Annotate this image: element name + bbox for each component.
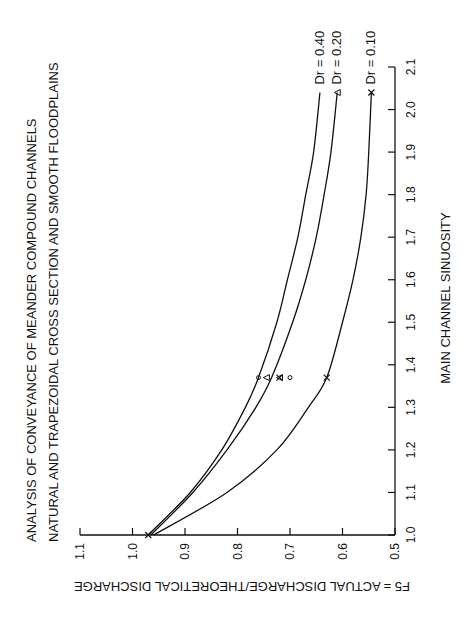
y-tick-label: 0.6 bbox=[336, 543, 350, 560]
series-line-2 bbox=[154, 93, 372, 535]
x-tick-label: 1.8 bbox=[404, 186, 418, 203]
chart-canvas: ANALYSIS OF CONVEYANCE OF MEANDER COMPOU… bbox=[0, 0, 470, 628]
x-tick-label: 1.5 bbox=[404, 314, 418, 331]
y-tick-label: 0.9 bbox=[178, 543, 192, 560]
y-tick-label: 1.1 bbox=[73, 543, 87, 560]
y-tick-label: 0.5 bbox=[388, 543, 402, 560]
chart-title: ANALYSIS OF CONVEYANCE OF MEANDER COMPOU… bbox=[24, 118, 39, 542]
x-tick-label: 2.1 bbox=[404, 58, 418, 75]
y-tick-label: 0.8 bbox=[231, 543, 245, 560]
series-label-1: Dr = 0.20 bbox=[329, 31, 344, 85]
x-tick-label: 1.1 bbox=[404, 484, 418, 501]
x-tick-label: 2.0 bbox=[404, 101, 418, 118]
series-label-0: Dr = 0.40 bbox=[312, 31, 327, 85]
y-tick-label: 0.7 bbox=[283, 543, 297, 560]
series-line-0 bbox=[148, 93, 320, 535]
y-axis-label: F5 = ACTUAL DISCHARGE/THEORETICAL DISCHA… bbox=[74, 579, 410, 594]
marker-circle bbox=[288, 376, 292, 380]
x-tick-label: 1.2 bbox=[404, 441, 418, 458]
x-tick-label: 1.6 bbox=[404, 271, 418, 288]
marker-triangle bbox=[263, 375, 269, 381]
x-tick-label: 1.9 bbox=[404, 143, 418, 160]
series-label-2: Dr = 0.10 bbox=[363, 31, 378, 85]
marker-x bbox=[324, 375, 330, 381]
chart-subtitle: NATURAL AND TRAPEZOIDAL CROSS SECTION AN… bbox=[46, 62, 61, 542]
y-tick-label: 1.0 bbox=[126, 543, 140, 560]
axes: 1.01.11.21.31.41.51.61.71.81.92.02.1 1.1… bbox=[73, 58, 418, 559]
x-tick-label: 1.7 bbox=[404, 229, 418, 246]
x-tick-label: 1.3 bbox=[404, 399, 418, 416]
x-tick-label: 1.0 bbox=[404, 526, 418, 543]
x-axis-label: MAIN CHANNEL SINUOSITY bbox=[438, 212, 453, 384]
x-tick-label: 1.4 bbox=[404, 356, 418, 373]
series-line-1 bbox=[151, 93, 337, 535]
